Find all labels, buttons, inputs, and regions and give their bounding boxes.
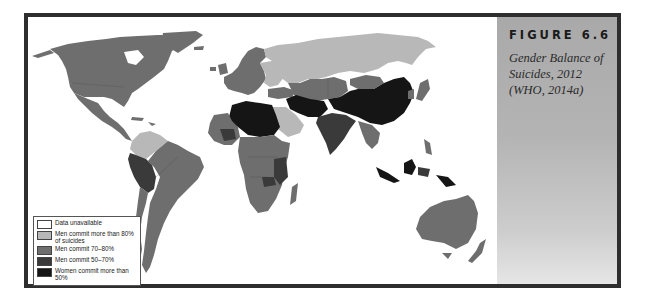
- swatch-light-gray: [37, 231, 52, 240]
- region-indonesia: [404, 159, 416, 175]
- figure-frame: Data unavailable Men commit more than 80…: [24, 13, 621, 288]
- swatch-white: [37, 220, 52, 229]
- legend-label: Data unavailable: [55, 220, 137, 227]
- figure-caption-panel: FIGURE 6.6 Gender Balance of Suicides, 2…: [497, 17, 617, 284]
- legend-label: Men commit 70–80%: [55, 246, 137, 253]
- legend-label: Men commit more than 80% of suicides: [55, 231, 137, 244]
- region-madagascar: [290, 183, 298, 205]
- legend-item-men-50-70: Men commit 50–70%: [37, 257, 137, 266]
- region-new-zealand: [468, 239, 486, 263]
- region-western-europe: [224, 47, 266, 95]
- legend-item-data-unavailable: Data unavailable: [37, 220, 137, 229]
- map-legend: Data unavailable Men commit more than 80…: [33, 216, 141, 286]
- region-india: [316, 113, 356, 155]
- legend-item-women-over-50: Women commit more than 50%: [37, 268, 137, 281]
- legend-item-men-over-80: Men commit more than 80% of suicides: [37, 231, 137, 244]
- region-australia: [416, 195, 478, 249]
- legend-item-men-70-80: Men commit 70–80%: [37, 246, 137, 255]
- swatch-dark-gray: [37, 257, 52, 266]
- region-southeast-asia: [358, 121, 380, 149]
- world-map: Data unavailable Men commit more than 80…: [28, 17, 497, 284]
- legend-label: Women commit more than 50%: [55, 268, 137, 281]
- swatch-mid-gray: [37, 246, 52, 255]
- region-brazil: [142, 141, 204, 273]
- region-russia: [264, 33, 436, 83]
- figure-number: FIGURE 6.6: [509, 28, 611, 42]
- legend-label: Men commit 50–70%: [55, 257, 137, 264]
- swatch-black: [37, 268, 52, 277]
- figure-caption: Gender Balance of Suicides, 2012 (WHO, 2…: [509, 50, 615, 98]
